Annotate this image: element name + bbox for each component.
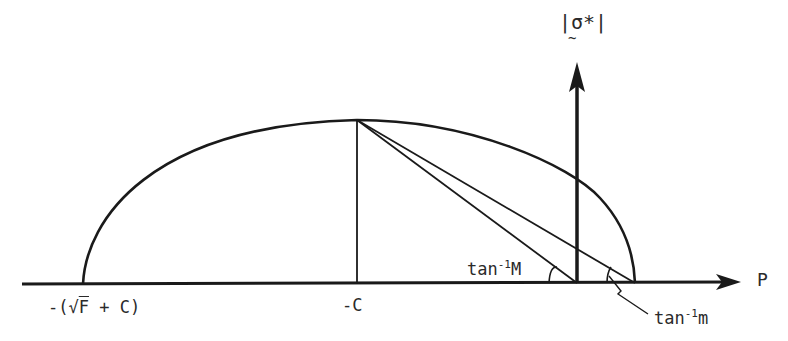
angle-m-arg: m (698, 308, 708, 328)
horizontal-axis-label: P (757, 271, 768, 289)
left-intercept-prefix: -( (48, 297, 68, 317)
p-axis (22, 282, 728, 284)
angle-label-M: tan-1M (467, 261, 521, 278)
angle-M-exponent: -1 (498, 258, 511, 271)
radicand-F: F (79, 297, 89, 317)
sigma-label-text: |σ*| (559, 10, 607, 34)
angle-M-base: tan (467, 259, 498, 279)
diagram-canvas (0, 0, 788, 341)
angle-M-arg: M (511, 259, 521, 279)
angle-m-exponent: -1 (685, 307, 698, 320)
vertical-axis-label: |σ*| ~ (559, 12, 607, 32)
angle-m-base: tan (654, 308, 685, 328)
sqrt-symbol: √ (68, 297, 78, 317)
angle-arc-m (607, 267, 611, 283)
center-label: -C (342, 297, 362, 314)
angle-arc-M (549, 267, 557, 283)
angle-label-m: tan-1m (654, 310, 708, 327)
yield-surface-curve (83, 120, 635, 284)
left-intercept-label: -(√F + C) (48, 299, 140, 316)
left-intercept-suffix: + C) (89, 297, 140, 317)
tilde-under-sigma: ~ (568, 31, 576, 45)
